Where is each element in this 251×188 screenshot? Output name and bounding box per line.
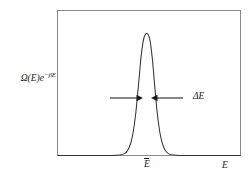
y-axis-label-base: Ω(E)e <box>21 73 44 83</box>
y-axis-label-exponent: −βE <box>44 71 56 78</box>
y-axis-label: Ω(E)e−βE <box>8 73 56 83</box>
x-axis-label: E <box>222 160 228 170</box>
x-tick-mean-energy-text: E <box>144 159 150 169</box>
x-tick-mean-energy: E <box>140 159 154 169</box>
plot-frame <box>57 10 241 156</box>
delta-e-label: ΔE <box>193 91 204 101</box>
energy-distribution-figure: Ω(E)e−βE ΔE E E <box>0 0 251 188</box>
